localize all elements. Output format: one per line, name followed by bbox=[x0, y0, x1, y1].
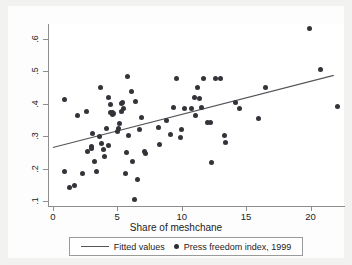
y-axis-tick-label: .6 bbox=[26, 33, 42, 45]
y-axis-tick-label: .5 bbox=[26, 65, 42, 77]
x-axis-tick-label: 20 bbox=[299, 211, 323, 222]
y-axis-tick-label-text: .4 bbox=[29, 97, 41, 111]
y-axis-tick bbox=[43, 201, 48, 202]
y-axis-tick bbox=[43, 39, 48, 40]
scatter-point bbox=[195, 85, 200, 90]
scatter-point bbox=[209, 160, 214, 165]
scatter-point bbox=[101, 147, 106, 152]
scatter-point bbox=[97, 134, 102, 139]
scatter-point bbox=[193, 113, 198, 118]
plot-area bbox=[49, 24, 344, 206]
scatter-point bbox=[106, 95, 111, 100]
scatter-point bbox=[123, 171, 128, 176]
scatter-point bbox=[135, 177, 140, 182]
y-axis-tick-label-text: .1 bbox=[29, 194, 41, 208]
scatter-point bbox=[75, 113, 80, 118]
scatter-point bbox=[199, 105, 204, 110]
scatter-point bbox=[89, 146, 94, 151]
y-axis-tick-label-text: .6 bbox=[29, 32, 41, 46]
y-axis-tick bbox=[43, 104, 48, 105]
chart-legend: Fitted values Press freedom index, 1999 bbox=[69, 237, 303, 256]
legend-label-press-freedom-index: Press freedom index, 1999 bbox=[184, 242, 292, 252]
y-axis-tick bbox=[43, 71, 48, 72]
scatter-point bbox=[124, 150, 129, 155]
y-axis-tick-label-text: .5 bbox=[29, 64, 41, 78]
x-axis-tick-label: 0 bbox=[41, 211, 65, 222]
scatter-point bbox=[164, 118, 169, 123]
scatter-point bbox=[156, 125, 161, 130]
legend-label-fitted-values: Fitted values bbox=[114, 242, 165, 252]
y-axis-tick-label-text: .3 bbox=[29, 129, 41, 143]
x-axis-tick-label: 10 bbox=[170, 211, 194, 222]
scatter-point bbox=[143, 151, 148, 156]
y-axis-line bbox=[48, 24, 49, 207]
scatter-point bbox=[120, 100, 125, 105]
x-axis-line bbox=[48, 206, 345, 207]
legend-dot-swatch bbox=[174, 244, 179, 249]
scatter-point bbox=[132, 197, 137, 202]
scatter-point bbox=[102, 154, 107, 159]
x-axis-label: Share of meshchane bbox=[8, 222, 344, 233]
scatter-point bbox=[62, 169, 67, 174]
chart-figure: .1.2.3.4.5.6 05101520 Share of meshchane… bbox=[0, 0, 352, 265]
scatter-point bbox=[92, 159, 97, 164]
chart-canvas: .1.2.3.4.5.6 05101520 Share of meshchane… bbox=[8, 6, 344, 258]
scatter-point bbox=[106, 143, 111, 148]
y-axis-tick-label: .1 bbox=[26, 195, 42, 207]
scatter-point bbox=[80, 171, 85, 176]
y-axis-tick-label: .2 bbox=[26, 163, 42, 175]
x-axis-tick-label: 15 bbox=[234, 211, 258, 222]
scatter-point bbox=[213, 76, 218, 81]
y-axis-tick bbox=[43, 136, 48, 137]
legend-item-press-freedom-index: Press freedom index, 1999 bbox=[174, 242, 292, 252]
scatter-point bbox=[223, 140, 228, 145]
scatter-point bbox=[218, 76, 223, 81]
scatter-point bbox=[201, 76, 206, 81]
legend-line-swatch bbox=[81, 246, 109, 247]
scatter-point bbox=[179, 127, 184, 132]
y-axis-tick-label: .3 bbox=[26, 130, 42, 142]
y-axis-tick-label-text: .2 bbox=[29, 162, 41, 176]
scatter-point bbox=[133, 99, 138, 104]
scatter-point bbox=[182, 106, 187, 111]
y-axis-tick-label: .4 bbox=[26, 98, 42, 110]
scatter-point bbox=[168, 132, 173, 137]
x-axis-tick-label: 5 bbox=[105, 211, 129, 222]
y-axis-tick bbox=[43, 169, 48, 170]
scatter-point bbox=[208, 120, 213, 125]
legend-item-fitted-values: Fitted values bbox=[81, 242, 165, 252]
